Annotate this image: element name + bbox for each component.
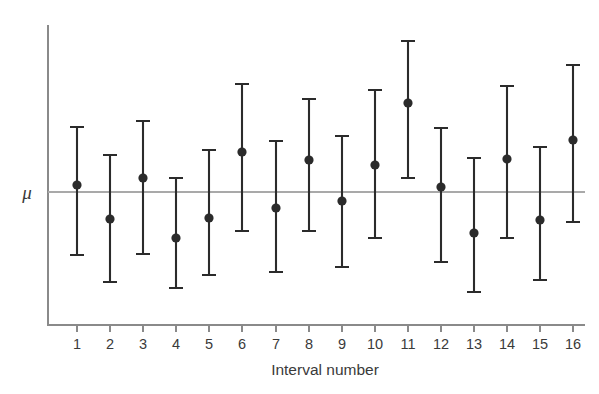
x-axis-tick-label-15: 15 (532, 336, 548, 352)
x-axis-tick-label-7: 7 (272, 336, 280, 352)
point-estimate-marker (502, 154, 511, 163)
x-axis-tick-label-2: 2 (106, 336, 114, 352)
x-axis-tick-label-16: 16 (565, 336, 581, 352)
chart-background (0, 0, 599, 394)
x-axis-tick-label-11: 11 (400, 336, 415, 352)
point-estimate-marker (237, 147, 246, 156)
chart-page: μ 12345678910111213141516 Interval numbe… (0, 0, 599, 394)
x-axis-tick-label-12: 12 (433, 336, 449, 352)
x-axis-tick-label-14: 14 (499, 336, 515, 352)
x-axis-tick-label-1: 1 (73, 336, 81, 352)
point-estimate-marker (105, 214, 114, 223)
x-axis-tick-label-8: 8 (305, 336, 313, 352)
point-estimate-marker (370, 160, 379, 169)
point-estimate-marker (271, 203, 280, 212)
point-estimate-marker (204, 213, 213, 222)
point-estimate-marker (337, 196, 346, 205)
x-axis-tick-label-5: 5 (205, 336, 213, 352)
confidence-interval-chart: μ 12345678910111213141516 Interval numbe… (0, 0, 599, 394)
point-estimate-marker (72, 180, 81, 189)
x-axis-tick-label-6: 6 (238, 336, 246, 352)
x-axis-tick-label-4: 4 (172, 336, 180, 352)
point-estimate-marker (568, 135, 577, 144)
mu-axis-label: μ (21, 182, 32, 203)
point-estimate-marker (535, 215, 544, 224)
x-axis-tick-label-9: 9 (338, 336, 346, 352)
x-axis-title: Interval number (271, 361, 379, 378)
point-estimate-marker (436, 182, 445, 191)
point-estimate-marker (138, 173, 147, 182)
x-axis-tick-label-13: 13 (466, 336, 482, 352)
x-axis-tick-label-10: 10 (367, 336, 383, 352)
point-estimate-marker (403, 98, 412, 107)
point-estimate-marker (304, 155, 313, 164)
x-axis-tick-label-3: 3 (139, 336, 147, 352)
point-estimate-marker (171, 233, 180, 242)
point-estimate-marker (469, 228, 478, 237)
